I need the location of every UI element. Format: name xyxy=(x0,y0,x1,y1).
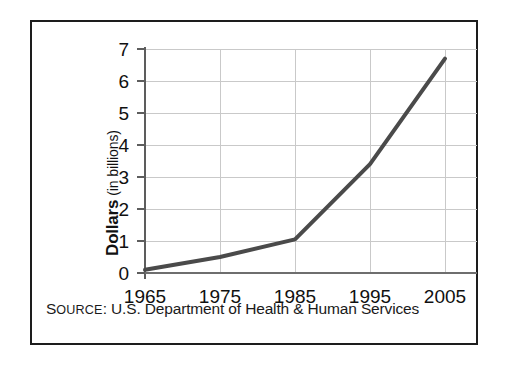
source-note: SOURCE: U.S. Department of Health & Huma… xyxy=(46,300,466,318)
y-tick-label-7: 7 xyxy=(103,40,129,59)
source-label-lead: S xyxy=(46,300,56,317)
horizontal-gridlines xyxy=(145,49,477,241)
y-axis-ticks xyxy=(137,49,145,273)
y-tick-label-1: 1 xyxy=(103,232,129,251)
source-text: U.S. Department of Health & Human Servic… xyxy=(107,300,419,317)
y-tick-label-0: 0 xyxy=(103,264,129,283)
figure-frame: Dollars (in billions) xyxy=(30,20,478,345)
plot-area: 7 6 5 4 3 2 1 0 1965 1975 1985 1995 2005 xyxy=(115,47,497,297)
y-tick-label-3: 3 xyxy=(103,168,129,187)
y-tick-label-2: 2 xyxy=(103,200,129,219)
vertical-gridlines xyxy=(220,49,445,273)
source-label-rest: OURCE xyxy=(56,303,102,317)
y-tick-label-6: 6 xyxy=(103,72,129,91)
y-tick-label-5: 5 xyxy=(103,104,129,123)
line-chart-svg xyxy=(115,47,497,297)
y-tick-label-4: 4 xyxy=(103,136,129,155)
chart-figure: Dollars (in billions) xyxy=(0,0,507,368)
